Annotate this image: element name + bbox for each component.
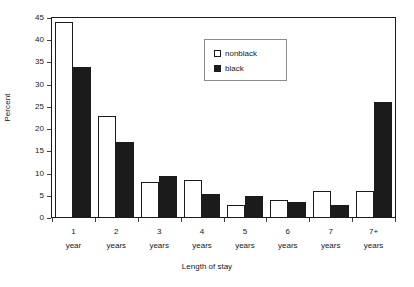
bar-black-6	[288, 202, 306, 218]
bar-nonblack-2	[98, 116, 116, 218]
x-category-number: 6	[265, 226, 311, 237]
x-category-unit: years	[308, 240, 354, 251]
bar-nonblack-1	[55, 22, 73, 218]
legend-label-nonblack: nonblack	[225, 49, 257, 58]
x-category-label: 2years	[93, 226, 139, 251]
x-category-unit: years	[265, 240, 311, 251]
x-category-unit: years	[179, 240, 225, 251]
bar-nonblack-7	[313, 191, 331, 218]
x-category-unit: years	[93, 240, 139, 251]
bar-black-5	[245, 196, 263, 218]
y-tick-label: 20	[22, 125, 44, 133]
bar-nonblack-6	[270, 200, 288, 218]
bar-black-4	[202, 194, 220, 218]
y-tick-label: 25	[22, 103, 44, 111]
y-tick-label: 35	[22, 58, 44, 66]
bar-black-2	[116, 142, 134, 218]
x-tick-mark	[181, 218, 182, 222]
x-category-label: 6years	[265, 226, 311, 251]
legend-label-black: black	[225, 64, 244, 73]
x-category-number: 3	[136, 226, 182, 237]
x-category-unit: years	[136, 240, 182, 251]
x-tick-mark	[138, 218, 139, 222]
x-category-number: 2	[93, 226, 139, 237]
bar-black-3	[159, 176, 177, 218]
x-tick-mark	[52, 218, 53, 222]
bar-black-7	[331, 205, 349, 218]
x-tick-mark	[266, 218, 267, 222]
x-category-label: 5years	[222, 226, 268, 251]
x-axis-title: Length of stay	[0, 262, 414, 271]
y-tick-label: 0	[22, 214, 44, 222]
legend: nonblack black	[204, 39, 287, 81]
x-category-number: 5	[222, 226, 268, 237]
x-category-label: 7+years	[351, 226, 397, 251]
bar-chart: Percent 051015202530354045 1year2years3y…	[0, 0, 414, 287]
x-category-number: 7+	[351, 226, 397, 237]
bar-nonblack-4	[184, 180, 202, 218]
y-tick-label: 15	[22, 147, 44, 155]
legend-item-nonblack: nonblack	[214, 46, 286, 61]
legend-swatch-black-icon	[214, 65, 221, 72]
x-category-unit: year	[50, 240, 96, 251]
x-category-label: 4years	[179, 226, 225, 251]
x-tick-mark	[352, 218, 353, 222]
x-tick-mark	[309, 218, 310, 222]
y-tick-label: 30	[22, 81, 44, 89]
bar-black-8	[374, 102, 392, 218]
y-tick-label: 40	[22, 36, 44, 44]
x-category-label: 1year	[50, 226, 96, 251]
x-category-number: 4	[179, 226, 225, 237]
x-category-unit: years	[351, 240, 397, 251]
x-category-label: 3years	[136, 226, 182, 251]
bar-nonblack-5	[227, 205, 245, 218]
bar-black-1	[73, 67, 91, 218]
x-category-number: 7	[308, 226, 354, 237]
x-tick-mark	[224, 218, 225, 222]
x-category-number: 1	[50, 226, 96, 237]
y-tick-label: 10	[22, 170, 44, 178]
bar-nonblack-3	[141, 182, 159, 218]
legend-swatch-nonblack-icon	[214, 50, 221, 57]
y-tick-label: 45	[22, 14, 44, 22]
y-axis-title: Percent	[3, 73, 12, 143]
x-category-label: 7years	[308, 226, 354, 251]
legend-item-black: black	[214, 61, 286, 76]
x-tick-mark	[95, 218, 96, 222]
y-tick-label: 5	[22, 192, 44, 200]
bar-nonblack-8	[356, 191, 374, 218]
y-tick-mark	[47, 218, 51, 219]
x-tick-mark	[395, 218, 396, 222]
x-category-unit: years	[222, 240, 268, 251]
